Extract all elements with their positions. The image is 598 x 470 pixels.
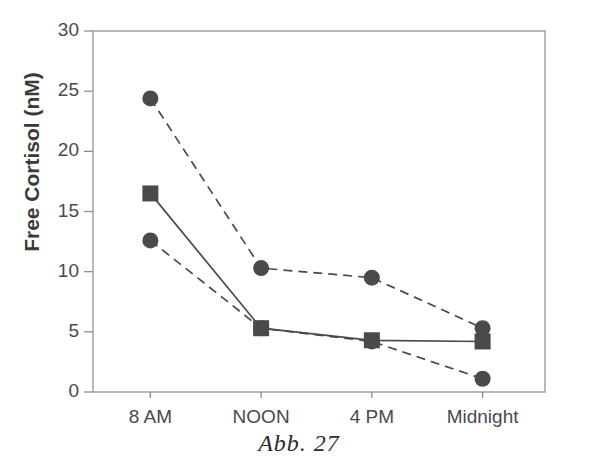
y-tick-label: 25 [33,79,79,101]
data-point-marker-circle [142,232,158,248]
series-line-lower-dashed-circle [150,240,482,378]
y-tick-label: 20 [33,139,79,161]
data-point-marker-circle [253,320,269,336]
figure-caption: Abb. 27 [0,430,598,457]
y-tick-label: 10 [33,260,79,282]
y-axis-ticks [84,31,93,392]
chart-canvas [0,0,598,470]
series-line-solid-square [150,193,482,341]
y-tick-label: 15 [33,200,79,222]
data-point-marker-circle [364,333,380,349]
data-point-marker-circle [142,90,158,106]
x-tick-label: Midnight [403,406,563,428]
x-axis-ticks [150,392,482,398]
data-point-marker-square [142,185,158,201]
data-point-marker-square [475,333,491,349]
y-tick-label: 5 [33,320,79,342]
data-series-layer [142,90,490,386]
data-point-marker-circle [364,270,380,286]
y-tick-label: 30 [33,19,79,41]
data-point-marker-circle [475,371,491,387]
data-point-marker-circle [253,260,269,276]
y-axis-title: Free Cortisol (nM) [20,42,44,282]
y-tick-label: 0 [33,380,79,402]
figure-container: Free Cortisol (nM) 051015202530 8 AMNOON… [0,0,598,470]
series-line-upper-dashed-circle [150,98,482,328]
